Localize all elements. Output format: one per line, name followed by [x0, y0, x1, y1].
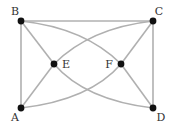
graph-canvas: ABCDEF [0, 0, 171, 128]
node-label-a: A [10, 111, 20, 124]
node-f [118, 61, 125, 68]
node-label-f: F [105, 58, 113, 71]
node-label-b: B [11, 5, 19, 18]
edge-b-e [21, 21, 54, 64]
node-e [51, 61, 58, 68]
node-label-e: E [62, 58, 70, 71]
edge-d-f [121, 64, 153, 108]
edge-a-e [21, 64, 54, 108]
edge-c-f [121, 21, 153, 64]
node-b [18, 18, 25, 25]
node-label-d: D [157, 111, 166, 124]
node-label-c: C [155, 5, 163, 18]
node-c [150, 18, 157, 25]
node-d [150, 105, 157, 112]
graph-diagram: ABCDEF [0, 0, 171, 128]
